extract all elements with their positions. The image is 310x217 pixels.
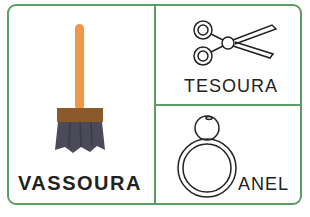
broom-icon xyxy=(50,22,110,157)
card-label-anel: ANEL xyxy=(238,174,289,195)
ring-icon xyxy=(172,112,242,202)
scissors-icon xyxy=(190,18,280,68)
card-label-tesoura: TESOURA xyxy=(184,76,278,97)
horizontal-divider xyxy=(155,104,302,106)
card-label-vassoura: VASSOURA xyxy=(18,172,142,195)
